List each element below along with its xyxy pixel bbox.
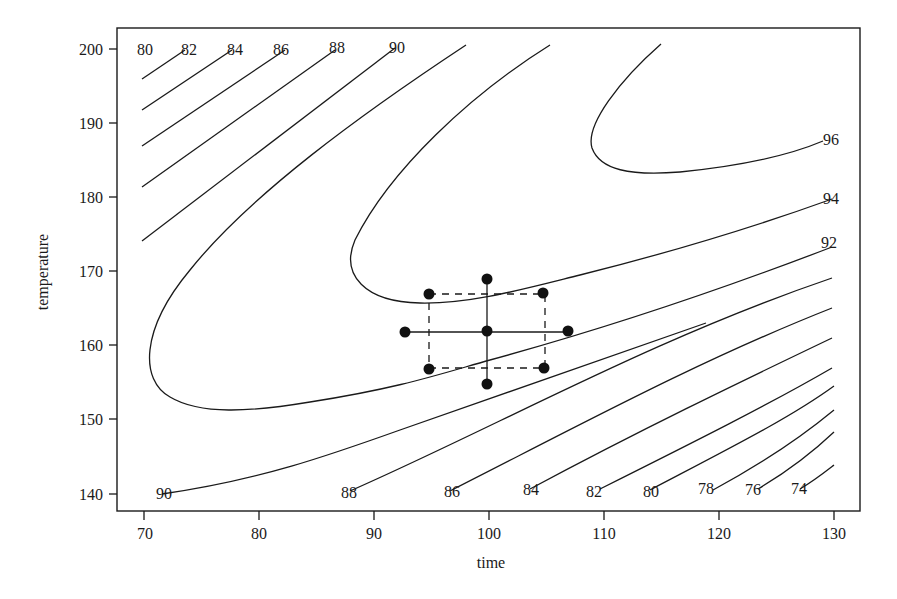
contour-line-92 xyxy=(150,45,490,410)
contour-line-84-lower xyxy=(530,338,832,489)
contour-label: 96 xyxy=(823,131,839,148)
y-tick-label: 160 xyxy=(79,337,103,354)
y-tick-label: 140 xyxy=(79,486,103,503)
design-point xyxy=(482,274,493,285)
contour-line-94 xyxy=(351,45,832,303)
x-tick-label: 100 xyxy=(477,525,501,542)
contour-label: 78 xyxy=(698,480,714,497)
y-tick-label: 190 xyxy=(79,115,103,132)
y-tick-label: 150 xyxy=(79,411,103,428)
contour-label: 84 xyxy=(523,481,539,498)
x-tick-labels: 70 80 90 100 110 120 130 xyxy=(137,525,846,542)
x-tick-label: 130 xyxy=(822,525,846,542)
x-tick-label: 70 xyxy=(137,525,153,542)
design-point xyxy=(424,364,435,375)
y-tick-labels: 200 190 180 170 160 150 140 xyxy=(79,41,103,503)
contour-line-96 xyxy=(591,44,823,173)
design-point xyxy=(400,327,411,338)
contour-label: 94 xyxy=(823,190,839,207)
contour-label: 86 xyxy=(444,483,460,500)
contour-line-88-lower xyxy=(350,278,832,491)
design-point xyxy=(563,326,574,337)
y-axis-title: temperature xyxy=(34,234,52,310)
contour-line-84 xyxy=(142,50,232,110)
center-point xyxy=(482,326,493,337)
bottom-contour-labels: 90 88 86 84 82 80 78 76 74 xyxy=(156,480,807,502)
right-contour-labels: 96 94 92 xyxy=(821,131,839,251)
x-axis xyxy=(144,511,834,520)
y-tick-label: 200 xyxy=(79,41,103,58)
contour-line-90-lower xyxy=(162,323,706,494)
contour-label: 80 xyxy=(137,41,153,58)
contour-plot: 200 190 180 170 160 150 140 temperature … xyxy=(0,0,897,599)
x-tick-label: 90 xyxy=(366,525,382,542)
contour-label: 90 xyxy=(389,39,405,56)
contour-label: 90 xyxy=(156,485,172,502)
contour-label: 84 xyxy=(227,41,243,58)
x-tick-label: 80 xyxy=(251,525,267,542)
contour-label: 82 xyxy=(181,41,197,58)
contour-label: 92 xyxy=(821,234,837,251)
contour-line-88 xyxy=(142,50,335,187)
contour-label: 74 xyxy=(791,480,807,497)
design-point xyxy=(424,289,435,300)
design-point xyxy=(482,379,493,390)
x-axis-title: time xyxy=(477,554,505,571)
x-tick-label: 120 xyxy=(707,525,731,542)
contour-label: 88 xyxy=(329,39,345,56)
contour-line-92-right xyxy=(490,247,832,360)
design-point xyxy=(538,288,549,299)
contour-label: 80 xyxy=(643,483,659,500)
contour-label: 76 xyxy=(745,481,761,498)
contour-label: 82 xyxy=(586,483,602,500)
design-point xyxy=(539,363,550,374)
y-tick-label: 180 xyxy=(79,189,103,206)
contours-upper-left xyxy=(142,48,395,241)
design-points xyxy=(400,274,574,390)
contour-label: 88 xyxy=(341,484,357,501)
y-tick-label: 170 xyxy=(79,263,103,280)
contour-label: 86 xyxy=(273,41,289,58)
contour-line-90-upper xyxy=(142,48,395,241)
y-axis xyxy=(109,49,117,494)
x-tick-label: 110 xyxy=(592,525,615,542)
contours-lower-right xyxy=(162,278,834,494)
contour-line-82-lower xyxy=(600,368,832,489)
